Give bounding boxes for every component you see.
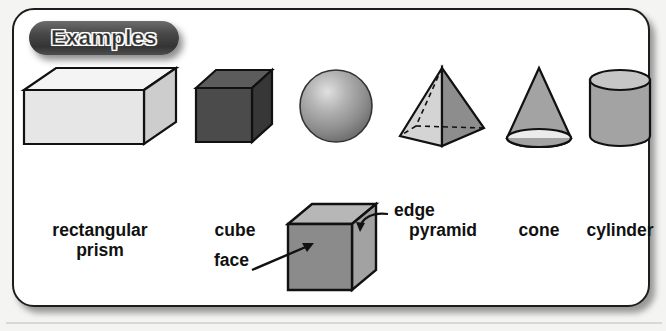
cylinder-label: cylinder	[578, 220, 662, 240]
cylinder-art	[578, 62, 662, 152]
annotated-cube-diagram: edge face	[190, 198, 490, 303]
shape-cube: cube	[184, 62, 286, 152]
shape-cone: cone	[496, 62, 582, 152]
edge-callout-label: edge	[394, 200, 435, 221]
cone-label: cone	[496, 220, 582, 240]
rectangular-prism-label: rectangular prism	[16, 220, 184, 260]
examples-header-label: Examples	[51, 25, 157, 51]
cube-art	[184, 62, 286, 152]
shape-pyramid: pyramid	[390, 62, 496, 152]
shape-cylinder: cylinder	[578, 62, 662, 152]
face-callout-label: face	[214, 250, 249, 271]
rectangular-prism-art	[16, 62, 184, 152]
shape-sphere: sphere	[286, 62, 390, 152]
panel-bottom-rule	[6, 322, 662, 324]
examples-header-pill: Examples	[29, 21, 179, 55]
shape-rectangular-prism: rectangular prism	[16, 62, 184, 152]
sphere-art	[286, 62, 390, 152]
pyramid-art	[390, 62, 496, 152]
cone-art	[496, 62, 582, 152]
